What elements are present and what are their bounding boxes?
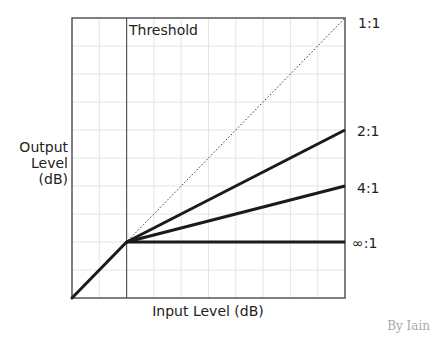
compressor-ratio-chart: Threshold 1:1 2:1 4:1 ∞:1 Output Level (… <box>0 0 434 339</box>
y-axis-label-line2: Level <box>31 155 68 171</box>
ratio-label-1-1: 1:1 <box>358 15 381 31</box>
threshold-label: Threshold <box>128 22 198 38</box>
credit-text: By Iain <box>387 319 430 333</box>
y-axis-label-line3: (dB) <box>39 171 68 187</box>
ratio-label-4-1: 4:1 <box>357 180 380 196</box>
ratio-label-inf-1: ∞:1 <box>352 235 377 251</box>
x-axis-label: Input Level (dB) <box>152 303 264 319</box>
ratio-label-2-1: 2:1 <box>357 123 380 139</box>
y-axis-label-line1: Output <box>19 139 68 155</box>
